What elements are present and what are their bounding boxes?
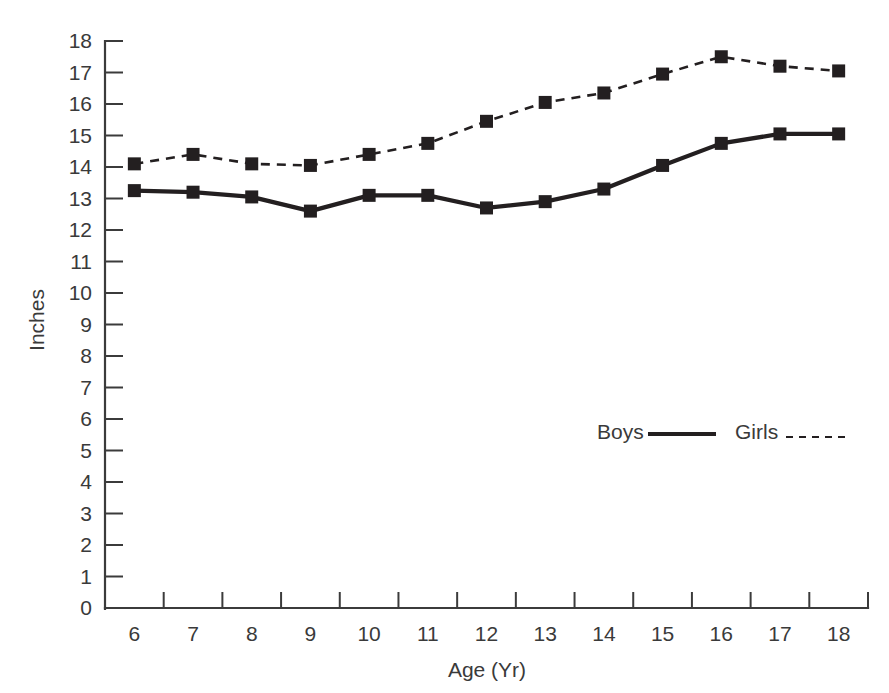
data-point	[363, 148, 376, 161]
data-point	[832, 64, 845, 77]
y-tick-label-11: 11	[70, 250, 92, 273]
y-tick-label-13: 13	[69, 187, 92, 210]
y-tick-label-6: 6	[80, 407, 92, 430]
x-tick-label-14: 14	[592, 622, 616, 645]
data-point	[187, 186, 200, 199]
y-tick-label-10: 10	[69, 281, 92, 304]
data-point	[245, 190, 258, 203]
data-point	[597, 86, 610, 99]
data-point	[480, 201, 493, 214]
data-point	[773, 127, 786, 140]
data-point	[715, 137, 728, 150]
y-tick-label-7: 7	[80, 376, 92, 399]
x-tick-label-16: 16	[710, 622, 733, 645]
data-point	[480, 115, 493, 128]
data-point	[363, 189, 376, 202]
x-tick-label-12: 12	[475, 622, 498, 645]
data-point	[539, 96, 552, 109]
legend: Boys Girls	[597, 420, 849, 443]
series-markers-girls	[128, 50, 845, 172]
y-axis-title: Inches	[25, 289, 48, 351]
data-point	[539, 195, 552, 208]
x-tick-label-17: 17	[768, 622, 791, 645]
x-tick-label-7: 7	[187, 622, 199, 645]
y-tick-label-2: 2	[80, 533, 92, 556]
data-point	[597, 183, 610, 196]
x-tick-label-15: 15	[651, 622, 674, 645]
data-point	[656, 68, 669, 81]
y-tick-label-17: 17	[69, 61, 92, 84]
x-axis-title: Age (Yr)	[448, 658, 526, 681]
data-point	[421, 189, 434, 202]
y-axis: 0123456789101112131415161718 Inches	[25, 29, 123, 619]
series-line-girls	[134, 57, 838, 166]
data-point	[421, 137, 434, 150]
y-tick-label-5: 5	[80, 439, 92, 462]
data-point	[187, 148, 200, 161]
y-tick-label-1: 1	[80, 565, 92, 588]
legend-label-boys: Boys	[597, 420, 644, 443]
data-point	[656, 159, 669, 172]
x-tick-label-13: 13	[534, 622, 557, 645]
x-tick-label-10: 10	[357, 622, 380, 645]
x-tick-label-8: 8	[246, 622, 258, 645]
x-tick-label-18: 18	[827, 622, 850, 645]
series-line-boys	[134, 134, 838, 211]
y-tick-label-12: 12	[69, 218, 92, 241]
data-point	[304, 159, 317, 172]
y-tick-label-16: 16	[69, 92, 92, 115]
data-point	[245, 157, 258, 170]
data-point	[715, 50, 728, 63]
y-tick-label-15: 15	[69, 124, 92, 147]
legend-label-girls: Girls	[735, 420, 778, 443]
legend-item-girls: Girls	[735, 420, 849, 443]
y-axis-ticks	[105, 41, 123, 577]
legend-item-boys: Boys	[597, 420, 716, 443]
x-tick-label-9: 9	[305, 622, 317, 645]
chart-container: 0123456789101112131415161718 Inches 6789…	[0, 0, 889, 693]
y-tick-label-8: 8	[80, 344, 92, 367]
plot-area	[128, 50, 845, 217]
x-axis-ticks	[105, 592, 868, 608]
y-axis-tick-labels: 0123456789101112131415161718	[69, 29, 93, 619]
y-tick-label-3: 3	[80, 502, 92, 525]
data-point	[773, 60, 786, 73]
y-tick-label-14: 14	[69, 155, 93, 178]
line-chart: 0123456789101112131415161718 Inches 6789…	[0, 0, 889, 693]
data-point	[128, 157, 141, 170]
x-axis: 6789101112131415161718 Age (Yr)	[105, 592, 868, 681]
data-point	[304, 205, 317, 218]
data-point	[832, 127, 845, 140]
y-tick-label-0: 0	[80, 596, 92, 619]
x-axis-tick-labels: 6789101112131415161718	[129, 622, 851, 645]
data-point	[128, 184, 141, 197]
x-tick-label-6: 6	[129, 622, 141, 645]
y-tick-label-18: 18	[69, 29, 92, 52]
y-tick-label-4: 4	[80, 470, 92, 493]
y-tick-label-9: 9	[80, 313, 92, 336]
x-tick-label-11: 11	[417, 622, 439, 645]
